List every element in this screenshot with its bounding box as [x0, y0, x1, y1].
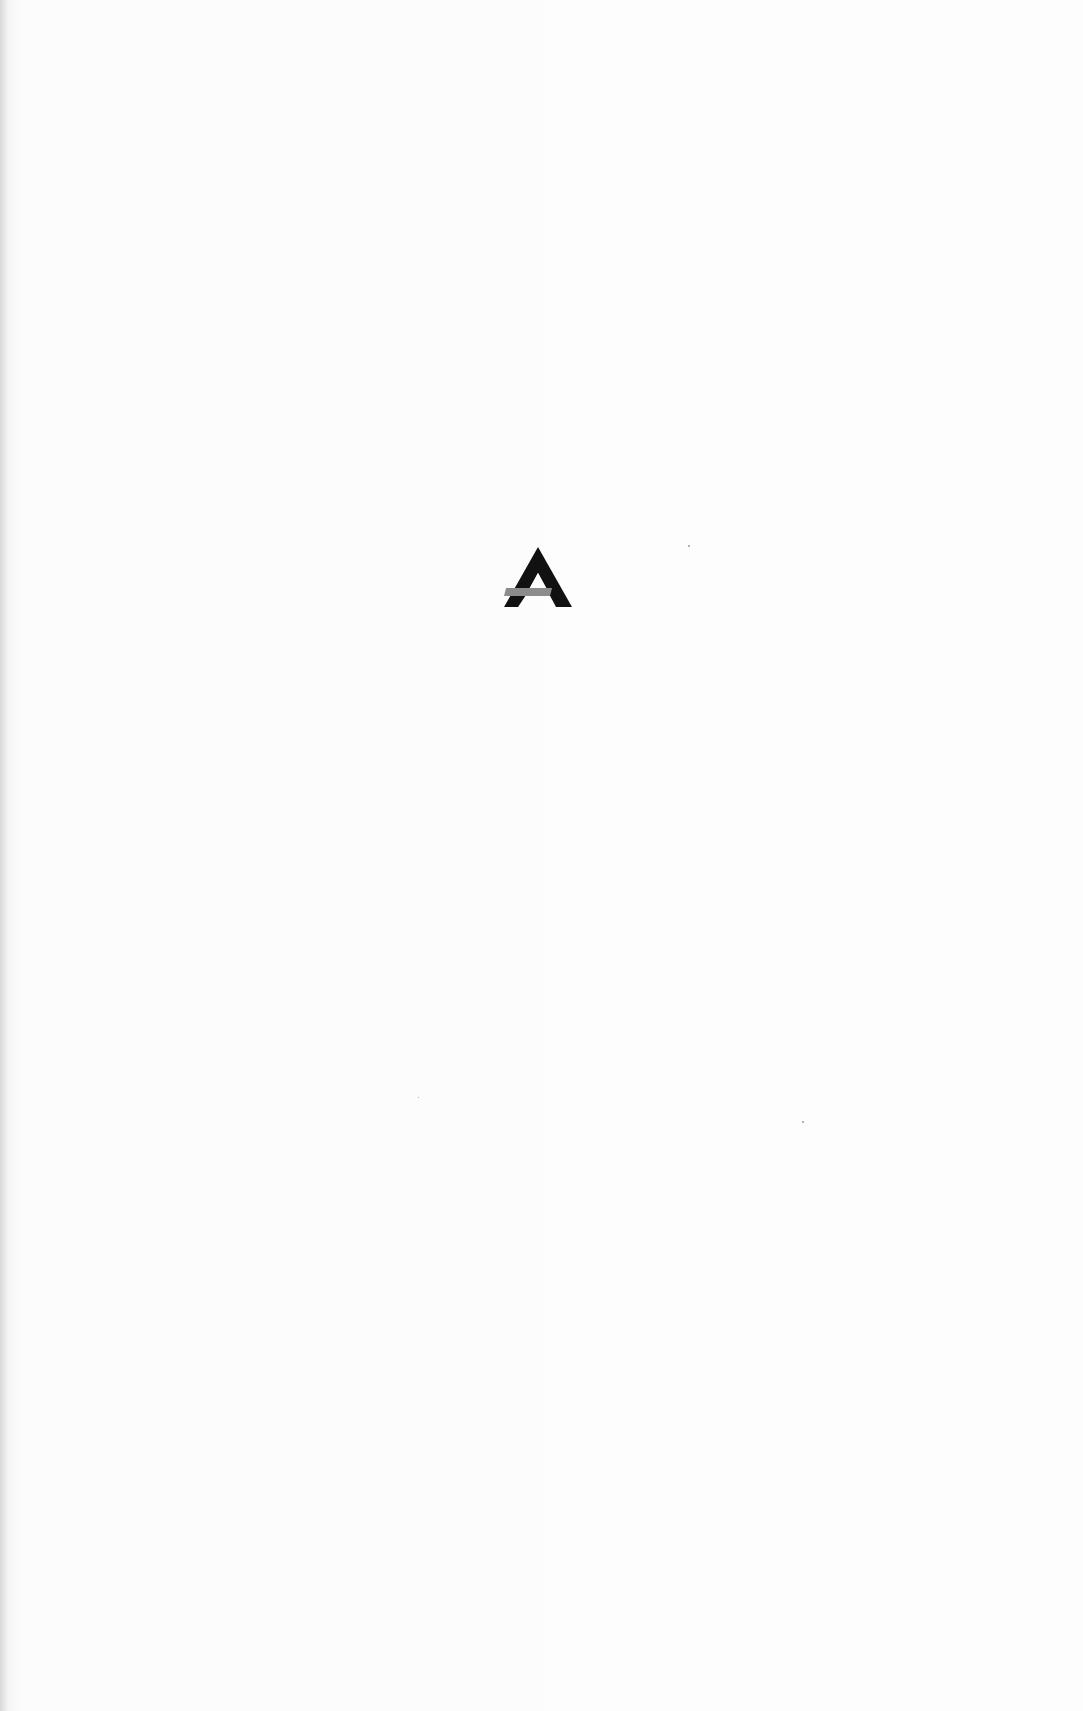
- scan-speck: [688, 545, 690, 547]
- scan-speck: [802, 1121, 804, 1123]
- scan-speck: [418, 1097, 419, 1098]
- publisher-logo: [504, 547, 572, 607]
- binding-edge-shadow: [0, 0, 8, 1711]
- scanned-page: [0, 0, 1083, 1711]
- publisher-a-logo-icon: [504, 547, 572, 607]
